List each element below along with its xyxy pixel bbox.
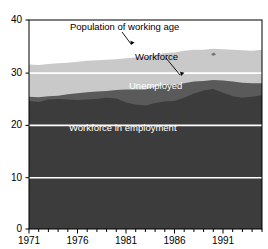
label-population-of-working-age: Population of working age bbox=[70, 22, 179, 32]
x-tick-label-1986: 1986 bbox=[155, 236, 195, 246]
label-unemployed: Unemployed bbox=[129, 81, 182, 91]
label-workforce: Workforce bbox=[135, 52, 178, 62]
x-tick-label-1976: 1976 bbox=[58, 236, 98, 246]
x-tick-label-1991: 1991 bbox=[203, 236, 243, 246]
y-tick-label-20: 20 bbox=[0, 120, 22, 130]
y-tick-label-30: 30 bbox=[0, 68, 22, 78]
x-tick-label-1971: 1971 bbox=[9, 236, 49, 246]
area-workforce-in-employment bbox=[29, 89, 262, 229]
x-tick-label-1981: 1981 bbox=[106, 236, 146, 246]
y-tick-label-40: 40 bbox=[0, 15, 22, 25]
y-tick-label-0: 0 bbox=[0, 224, 22, 234]
label-workforce-in-employment: Workforce in employment bbox=[69, 123, 177, 133]
y-tick-label-10: 10 bbox=[0, 173, 22, 183]
